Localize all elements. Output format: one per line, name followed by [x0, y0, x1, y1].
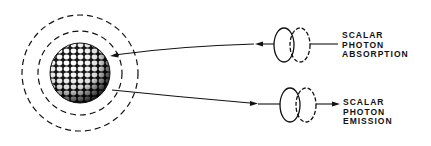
emission-arrow [112, 90, 280, 106]
absorption-label: SCALAR PHOTON ABSORPTION [342, 31, 409, 60]
absorption-photon-loops-icon [274, 28, 338, 62]
absorption-label-line-3: ABSORPTION [342, 50, 409, 60]
emission-label: SCALAR PHOTON EMISSION [343, 98, 393, 127]
emission-label-line-3: EMISSION [343, 117, 393, 127]
scalar-photon-diagram: SCALAR PHOTON ABSORPTION SCALAR PHOTON E… [0, 0, 431, 146]
emission-photon-loops-icon [280, 88, 340, 122]
